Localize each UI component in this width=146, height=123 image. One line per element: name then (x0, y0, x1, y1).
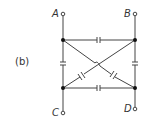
capacitor-network-diagram (0, 0, 146, 123)
